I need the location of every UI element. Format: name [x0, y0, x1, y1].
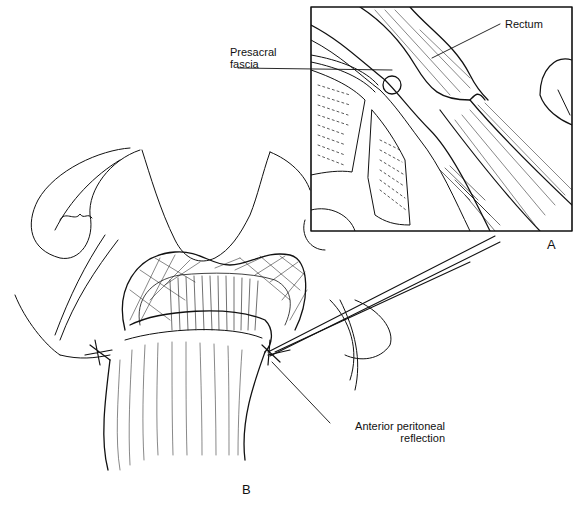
- rectum-drawing: [60, 311, 290, 470]
- inset-a-frame: [311, 7, 572, 231]
- retractor-instrument: [268, 236, 500, 356]
- label-presacral-line2: fascia: [230, 58, 276, 70]
- label-anterior-peritoneal-reflection: Anterior peritoneal reflection: [335, 420, 445, 444]
- label-anterior-line1: Anterior peritoneal: [335, 420, 445, 432]
- label-presacral-fascia: Presacral fascia: [230, 46, 276, 70]
- panel-label-a: A: [547, 237, 556, 252]
- panel-label-b: B: [242, 482, 251, 497]
- label-anterior-line2: reflection: [335, 432, 445, 444]
- label-rectum: Rectum: [505, 18, 543, 30]
- label-presacral-line1: Presacral: [230, 46, 276, 58]
- illustration: [0, 0, 585, 506]
